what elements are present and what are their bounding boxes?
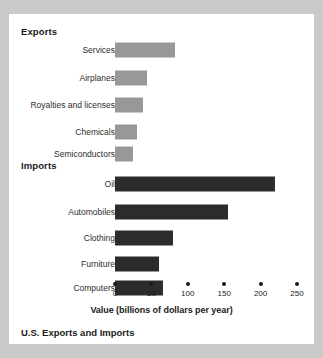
figure-page: Exports Imports ServicesAirplanesRoyalti… — [0, 0, 323, 358]
bar-label: Clothing — [84, 233, 115, 243]
group-header-exports: Exports — [21, 26, 57, 37]
bar-label: Oil — [105, 179, 115, 189]
tick-dot-icon — [149, 282, 153, 286]
bar-label: Chemicals — [75, 127, 115, 137]
bar — [115, 257, 159, 272]
x-axis: 050100150200250 — [115, 282, 297, 322]
x-axis-tick: 200 — [246, 282, 276, 298]
x-axis-tick-label: 250 — [282, 289, 312, 298]
bar — [115, 147, 133, 162]
tick-dot-icon — [186, 282, 190, 286]
bar-label: Automobiles — [68, 207, 115, 217]
bar-row: Oil — [9, 172, 314, 196]
bar-label: Services — [82, 45, 115, 55]
bar-label: Semiconductors — [54, 149, 115, 159]
bar-row: Airplanes — [9, 66, 314, 90]
bar — [115, 125, 137, 140]
bar — [115, 177, 275, 192]
x-axis-tick-label: 0 — [100, 289, 130, 298]
bar-label: Furniture — [81, 259, 115, 269]
bar-row: Furniture — [9, 252, 314, 276]
x-axis-tick-label: 50 — [136, 289, 166, 298]
bar-label: Royalties and licenses — [30, 100, 115, 110]
bar-row: Clothing — [9, 226, 314, 250]
bar-chart: Exports Imports ServicesAirplanesRoyalti… — [9, 14, 314, 302]
bar-label: Airplanes — [80, 73, 115, 83]
bar-row: Semiconductors — [9, 142, 314, 166]
bar — [115, 71, 147, 86]
bar — [115, 98, 143, 113]
bar-row: Chemicals — [9, 120, 314, 144]
bar — [115, 231, 173, 246]
bar-row: Royalties and licenses — [9, 93, 314, 117]
tick-dot-icon — [295, 282, 299, 286]
bar — [115, 205, 228, 220]
bar-row: Services — [9, 38, 314, 62]
x-axis-tick: 250 — [282, 282, 312, 298]
tick-dot-icon — [113, 282, 117, 286]
tick-dot-icon — [222, 282, 226, 286]
tick-dot-icon — [259, 282, 263, 286]
x-axis-tick: 0 — [100, 282, 130, 298]
x-axis-tick-label: 100 — [173, 289, 203, 298]
x-axis-tick-label: 150 — [209, 289, 239, 298]
figure-caption: U.S. Exports and Imports — [21, 327, 135, 338]
x-axis-tick: 100 — [173, 282, 203, 298]
x-axis-tick-label: 200 — [246, 289, 276, 298]
figure-card: Exports Imports ServicesAirplanesRoyalti… — [9, 14, 314, 344]
x-axis-title: Value (billions of dollars per year) — [9, 305, 314, 315]
x-axis-tick: 50 — [136, 282, 166, 298]
bar — [115, 43, 175, 58]
bar-row: Automobiles — [9, 200, 314, 224]
x-axis-tick: 150 — [209, 282, 239, 298]
